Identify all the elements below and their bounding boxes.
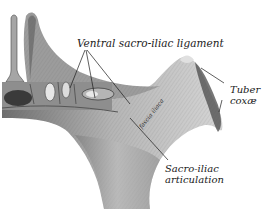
- pelvis-illustration: [0, 0, 268, 209]
- label-ventral-sacro-iliac-ligament: Ventral sacro-iliac ligament: [77, 38, 224, 49]
- label-sacro-line2: articulation: [165, 174, 224, 185]
- label-tuber-coxae: Tuber coxæ: [230, 84, 260, 106]
- label-sacro-iliac-articulation: Sacro-iliac articulation: [165, 163, 224, 185]
- label-tuber-line1: Tuber: [230, 84, 260, 95]
- sacrum-foramina: [2, 82, 118, 112]
- spinous-process: [6, 15, 24, 82]
- label-tuber-line2: coxæ: [230, 95, 260, 106]
- label-sacro-line1: Sacro-iliac: [165, 163, 224, 174]
